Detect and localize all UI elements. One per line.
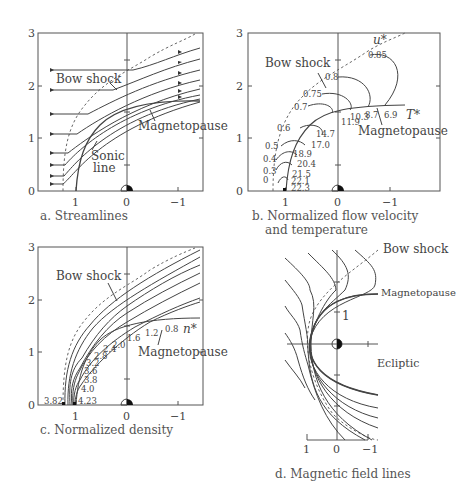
point-marker	[73, 402, 76, 405]
caption-a: a. Streamlines	[40, 209, 128, 223]
earth-symbol	[121, 399, 133, 405]
u-contour-label: 0.85	[368, 50, 387, 60]
y-tick-2: 2	[28, 294, 35, 307]
n-contour-label: 1.2	[145, 328, 159, 338]
caption-b: b. Normalized flow velocity	[252, 209, 419, 223]
leader-line	[158, 330, 162, 345]
x-tick-1: 1	[303, 443, 310, 456]
caption-c: c. Normalized density	[40, 423, 173, 437]
panel-c-density: 0 1 2 3 1 0 −1 3.82 4.23 4.0 3.8 3.6 3.2…	[28, 241, 228, 437]
label-n-star: n*	[183, 322, 197, 336]
caption-b-line2: and temperature	[265, 223, 368, 237]
x-tick-0: 0	[334, 196, 341, 209]
label-bow-shock: Bow shock	[56, 269, 122, 283]
n-contour-label: 0.8	[165, 324, 179, 334]
x-tick-1: 1	[72, 196, 79, 209]
y-tick-3: 3	[28, 241, 35, 254]
label-bow-shock: Bow shock	[383, 242, 449, 256]
figure-canvas: 0 1 2 3 1 0 −1	[0, 0, 463, 498]
T-contour-label: 17.0	[311, 140, 330, 150]
label-magnetopause: Magnetopause	[138, 345, 228, 359]
label-bow-shock: Bow shock	[56, 72, 122, 86]
panel-d-magnetic-field: Bow shock Magnetopause 1 Ecliptic 1 0 −1…	[275, 242, 456, 481]
n-contour-label: 4.23	[78, 396, 97, 406]
x-tick-0: 0	[333, 443, 340, 456]
T-contour-label: 8.7	[365, 110, 379, 120]
label-one: 1	[342, 309, 350, 323]
y-tick-3: 3	[28, 27, 35, 40]
bow-shock-curve	[307, 250, 378, 440]
x-tick-0: 0	[123, 410, 130, 423]
panel-b-velocity-temperature: 0 1 2 3 1 0 −1 0.85 0.8 0.75 0.7 0.6 0.5…	[236, 27, 448, 237]
y-tick-0: 0	[28, 399, 35, 412]
x-tick-1: 1	[72, 410, 79, 423]
x-tick-neg1: −1	[382, 196, 398, 209]
label-magnetopause: Magnetopause	[138, 119, 228, 133]
u-contour-label: 0.5	[265, 141, 279, 151]
x-tick-1: 1	[282, 196, 289, 209]
y-tick-1: 1	[236, 132, 243, 145]
u-contour-label: 0.75	[303, 89, 322, 99]
n-contour-label: 2.0	[112, 340, 126, 350]
x-tick-0: 0	[123, 196, 130, 209]
y-tick-3: 3	[236, 27, 243, 40]
n-contour-label: 1.6	[127, 333, 141, 343]
x-tick-neg1: −1	[362, 443, 378, 456]
label-u-star: u*	[373, 33, 387, 47]
y-tick-2: 2	[236, 80, 243, 93]
caption-d: d. Magnetic field lines	[275, 467, 411, 481]
stagnation-point	[283, 188, 286, 191]
label-bow-shock: Bow shock	[265, 56, 331, 70]
label-sonic-line-2: line	[93, 161, 116, 175]
x-tick-neg1: −1	[170, 196, 186, 209]
label-T-star: T*	[406, 108, 420, 122]
T-contour-label: 20.4	[297, 159, 316, 169]
n-contour-label: 4.0	[81, 384, 95, 394]
panel-a-streamlines: 0 1 2 3 1 0 −1	[28, 27, 228, 223]
T-contour-label: 6.9	[384, 110, 398, 120]
x-tick-neg1: −1	[170, 410, 186, 423]
u-contour-label: 0	[263, 175, 268, 185]
earth-symbol	[121, 185, 133, 191]
T-contour-label: 14.7	[316, 129, 335, 139]
u-contour-label: 0.4	[263, 154, 277, 164]
y-tick-0: 0	[236, 185, 243, 198]
label-magnetopause: Magnetopause	[381, 287, 456, 298]
label-magnetopause: Magnetopause	[358, 124, 448, 138]
n-contour-label: 3.8	[84, 375, 98, 385]
n-contour-label: 3.82	[44, 396, 63, 406]
earth-symbol	[332, 185, 344, 191]
T-contour-label: 21.5	[292, 169, 311, 179]
streamlines	[52, 48, 200, 184]
u-contour-label: 0.7	[294, 102, 308, 112]
label-ecliptic: Ecliptic	[377, 357, 419, 370]
T-contour-label: 18.9	[293, 149, 312, 159]
u-contour-label: 0.6	[277, 123, 291, 133]
y-tick-0: 0	[28, 185, 35, 198]
y-tick-2: 2	[28, 80, 35, 93]
u-contour-label: 0.8	[325, 72, 339, 82]
y-tick-1: 1	[28, 132, 35, 145]
y-tick-1: 1	[28, 346, 35, 359]
